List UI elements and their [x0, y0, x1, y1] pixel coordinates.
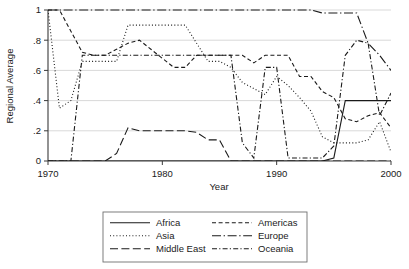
legend-label-oceania: Oceania: [258, 243, 294, 254]
x-axis-tick-labels: 1970198019902000: [37, 168, 401, 179]
legend-label-asia: Asia: [156, 230, 175, 241]
legend-entries: AfricaAmericasAsiaEuropeMiddle EastOcean…: [110, 217, 298, 254]
line-chart: 0.2.4.6.81 1970198019902000 Regional Ave…: [0, 0, 409, 269]
legend-label-americas: Americas: [258, 217, 298, 228]
y-tick-label: .6: [33, 65, 41, 76]
x-tick-label: 1980: [152, 168, 173, 179]
gridlines: [48, 10, 391, 131]
x-tick-label: 1990: [266, 168, 287, 179]
y-tick-label: .4: [33, 95, 41, 106]
y-axis-tick-labels: 0.2.4.6.81: [33, 4, 41, 166]
legend-label-middle-east: Middle East: [156, 243, 206, 254]
x-tick-label: 2000: [380, 168, 401, 179]
series-line-middle-east: [48, 128, 391, 161]
series-line-americas: [48, 10, 391, 128]
legend-label-africa: Africa: [156, 217, 181, 228]
chart-figure: 0.2.4.6.81 1970198019902000 Regional Ave…: [0, 0, 409, 269]
x-axis-title: Year: [209, 181, 228, 192]
y-axis-ticks: [44, 10, 48, 161]
series-layer: [48, 10, 391, 161]
y-tick-label: .2: [33, 125, 41, 136]
y-tick-label: .8: [33, 35, 41, 46]
y-axis-title: Regional Average: [4, 49, 15, 124]
x-axis-ticks: [48, 161, 391, 165]
y-tick-label: 1: [36, 4, 41, 15]
y-tick-label: 0: [36, 155, 41, 166]
x-tick-label: 1970: [37, 168, 58, 179]
legend-label-europe: Europe: [258, 230, 289, 241]
